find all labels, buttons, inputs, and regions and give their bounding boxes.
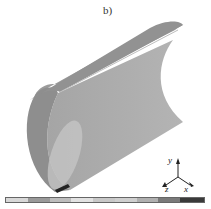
colorbar-segment: [6, 198, 28, 202]
axis-triad: [162, 158, 194, 187]
colorbar-segment: [71, 198, 93, 202]
axis-x-label: x: [184, 184, 188, 194]
color-legend-bar: [5, 197, 205, 203]
colorbar-segment: [137, 198, 159, 202]
axis-z-label: z: [165, 184, 169, 194]
shell-figure: [0, 0, 211, 209]
axis-y-label: y: [168, 155, 172, 165]
colorbar-segment: [50, 198, 72, 202]
colorbar-segment: [180, 198, 204, 202]
colorbar-segment: [93, 198, 115, 202]
colorbar-segment: [158, 198, 180, 202]
colorbar-segment: [28, 198, 50, 202]
colorbar-segment: [115, 198, 137, 202]
